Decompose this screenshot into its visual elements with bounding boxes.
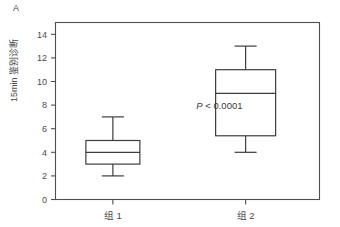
- x-category-label: 组 1: [104, 210, 122, 221]
- y-tick-label: 2: [42, 171, 47, 181]
- figure-panel: A 15min 鉴别诊断 02468101214 组 1组 2 P < 0.00…: [0, 0, 340, 227]
- annotation-p-value: P < 0.0001: [196, 100, 242, 111]
- plot-frame: [56, 23, 320, 200]
- y-tick-label: 12: [37, 53, 47, 63]
- y-tick-label: 14: [37, 30, 47, 40]
- x-axis-ticks: [113, 200, 246, 205]
- x-category-label: 组 2: [237, 210, 255, 221]
- box-plot-svg: 02468101214 组 1组 2 P < 0.0001: [0, 0, 340, 227]
- y-tick-label: 4: [42, 148, 47, 158]
- y-tick-label: 8: [42, 100, 47, 110]
- y-tick-label: 6: [42, 124, 47, 134]
- chart-annotations: P < 0.0001: [196, 100, 242, 111]
- y-axis-ticks: 02468101214: [37, 30, 56, 205]
- box-plot-series: [86, 46, 276, 176]
- y-tick-label: 10: [37, 77, 47, 87]
- x-axis-category-labels: 组 1组 2: [104, 210, 255, 221]
- y-tick-label: 0: [42, 195, 47, 205]
